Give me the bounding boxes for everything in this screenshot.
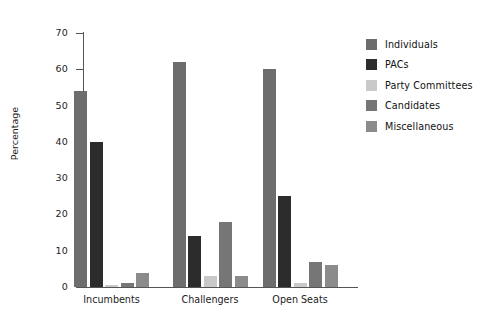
y-tick-label: 10 [30,245,68,256]
x-axis-line [83,287,358,288]
y-tick-label: 40 [30,136,68,147]
legend-swatch [366,59,377,70]
y-tick-label: 0 [30,281,68,292]
bar [74,91,87,287]
legend-label: Miscellaneous [385,121,454,132]
legend-swatch [366,39,377,50]
bar [219,222,232,287]
bar [90,142,103,287]
y-tick-label: 60 [30,63,68,74]
legend-label: Candidates [385,100,440,111]
bar [294,283,307,287]
bar [188,236,201,287]
legend-swatch [366,121,377,132]
y-tick-label: 30 [30,172,68,183]
bar [121,283,134,287]
legend-item: Individuals [366,34,473,55]
legend-swatch [366,100,377,111]
y-tick-label: 50 [30,100,68,111]
bar [173,62,186,287]
bar [136,273,149,288]
bar [309,262,322,287]
legend-item: PACs [366,55,473,76]
bar [325,265,338,287]
y-axis-title: Percentage [9,107,20,160]
bar-chart-figure: 010203040506070 Percentage IncumbentsCha… [0,0,486,319]
chart-legend: IndividualsPACsParty CommitteesCandidate… [366,34,473,137]
legend-swatch [366,80,377,91]
bar [204,276,217,287]
bar [235,276,248,287]
y-tick-label: 70 [30,27,68,38]
bar [278,196,291,287]
legend-item: Miscellaneous [366,116,473,137]
legend-label: Individuals [385,39,438,50]
y-tick-label: 20 [30,208,68,219]
bar-group [173,33,248,287]
legend-item: Candidates [366,96,473,117]
bar [263,69,276,287]
bar [105,285,118,287]
x-axis-label: Open Seats [240,294,360,305]
legend-label: PACs [385,59,409,70]
legend-label: Party Committees [385,80,473,91]
plot-area [84,33,357,287]
bar-group [74,33,149,287]
legend-item: Party Committees [366,75,473,96]
bar-group [263,33,338,287]
